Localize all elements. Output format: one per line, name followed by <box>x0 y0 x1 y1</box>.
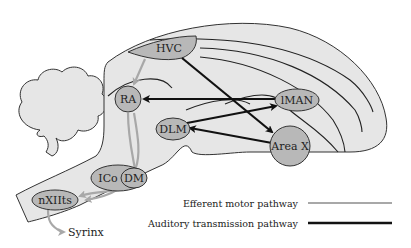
label-ico: ICo <box>98 172 118 185</box>
cerebellum-shape <box>19 67 106 156</box>
label-dm: DM <box>124 172 144 185</box>
label-lman: lMAN <box>281 94 314 107</box>
legend: Efferent motor pathway Auditory transmis… <box>147 198 392 229</box>
label-nxiits: nXIIts <box>38 194 72 207</box>
songbird-brain-diagram: HVC RA lMAN DLM Area X ICo DM nXIIts Syr… <box>0 0 411 248</box>
label-dlm: DLM <box>159 123 186 136</box>
legend-label-auditory: Auditory transmission pathway <box>147 218 299 229</box>
label-hvc: HVC <box>156 42 182 55</box>
label-ra: RA <box>120 93 137 106</box>
label-area-x: Area X <box>270 140 309 153</box>
label-syrinx: Syrinx <box>68 226 105 239</box>
legend-label-motor: Efferent motor pathway <box>183 198 299 209</box>
